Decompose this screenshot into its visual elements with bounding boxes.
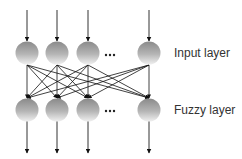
input-node-3: [77, 42, 100, 65]
fuzzy-layer-label: Fuzzy layer: [174, 103, 235, 117]
incoming-arrows: [27, 10, 149, 41]
fuzzy-node-2: [46, 99, 69, 122]
network-diagram: [0, 0, 242, 159]
fuzzy-node-1: [16, 99, 39, 122]
fuzzy-node-4: [138, 99, 161, 122]
input-layer-label: Input layer: [174, 46, 230, 60]
fuzzy-node-3: [77, 99, 100, 122]
connections: [27, 65, 149, 98]
outgoing-arrows: [27, 121, 149, 153]
input-layer-nodes: [16, 42, 161, 65]
input-node-1: [16, 42, 39, 65]
ellipsis-input: [105, 54, 115, 56]
input-node-2: [46, 42, 69, 65]
ellipsis-fuzzy: [105, 110, 115, 112]
input-node-4: [138, 42, 161, 65]
fuzzy-layer-nodes: [16, 99, 161, 122]
